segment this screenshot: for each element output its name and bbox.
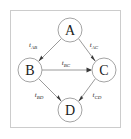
edge-a-to-b: tAB <box>29 39 62 62</box>
edge-a-to-c-label: tAC <box>90 41 99 50</box>
graph-svg: tAB tAC tBC tBD <box>0 0 131 139</box>
edge-b-to-c-arrowhead <box>87 68 93 73</box>
edge-c-to-d: tCD <box>78 79 101 102</box>
edge-c-to-d-label-sub: CD <box>95 95 102 100</box>
edge-b-to-d-arrowhead <box>57 95 62 102</box>
edge-b-to-d-label-sub: BD <box>37 95 44 100</box>
node-d[interactable]: D <box>58 98 82 122</box>
edge-a-to-b-label: tAB <box>29 41 37 50</box>
node-b-label: B <box>25 63 34 78</box>
edge-b-to-d: tBD <box>35 79 62 102</box>
edge-b-to-c: tBC <box>42 59 92 72</box>
edge-b-to-c-label: tBC <box>62 59 71 68</box>
node-b[interactable]: B <box>18 58 42 82</box>
edge-c-to-d-label: tCD <box>93 91 102 100</box>
edge-a-to-c: tAC <box>79 39 99 62</box>
node-c[interactable]: C <box>92 58 116 82</box>
edge-a-to-b-arrowhead <box>38 56 43 62</box>
edge-a-to-c-label-sub: AC <box>91 45 99 50</box>
node-d-label: D <box>65 103 75 118</box>
edge-b-to-c-label-sub: BC <box>64 63 71 68</box>
node-a-label: A <box>65 23 76 38</box>
node-a[interactable]: A <box>58 18 82 42</box>
node-c-label: C <box>99 63 108 78</box>
edge-a-to-b-label-sub: AB <box>30 45 37 50</box>
figure-canvas: tAB tAC tBC tBD <box>0 0 131 139</box>
edge-b-to-d-label: tBD <box>35 91 44 100</box>
